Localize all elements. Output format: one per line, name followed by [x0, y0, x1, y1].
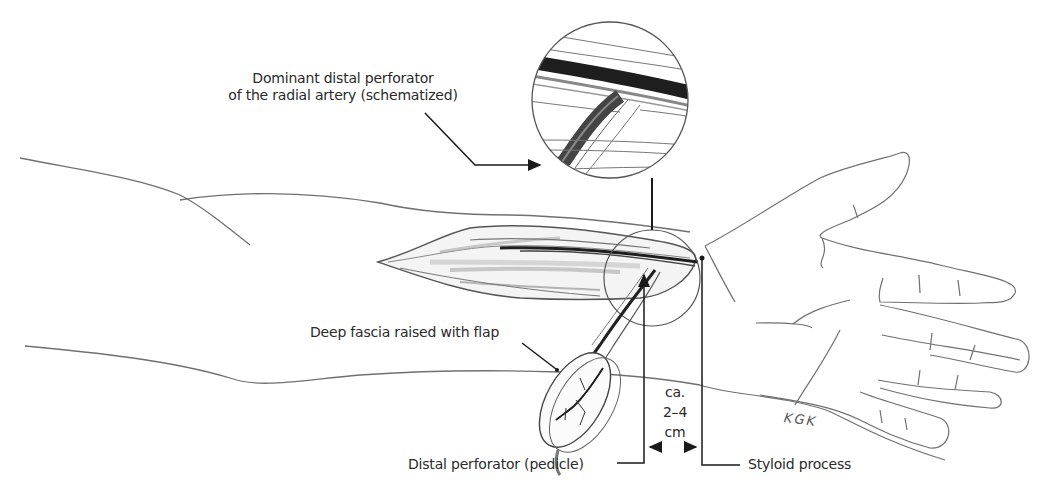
illustration-canvas: [0, 0, 1061, 501]
label-distance-line2: 2–4: [652, 402, 698, 422]
label-distance: ca. 2–4 cm: [652, 382, 698, 442]
label-styloid-process: Styloid process: [748, 456, 851, 473]
perforator-leader: [425, 113, 540, 165]
magnified-detail-circle: [520, 22, 700, 178]
label-distal-perforator-pedicle: Distal perforator (pedicle): [408, 456, 584, 473]
label-distance-line3: cm: [652, 422, 698, 442]
hand-outline: [700, 152, 1029, 460]
label-distance-line1: ca.: [652, 382, 698, 402]
label-perforator-line2: of the radial artery (schematized): [208, 87, 478, 104]
label-dominant-perforator: Dominant distal perforator of the radial…: [208, 70, 478, 104]
fascia-leader: [522, 343, 556, 369]
label-perforator-line1: Dominant distal perforator: [208, 70, 478, 87]
label-deep-fascia: Deep fascia raised with flap: [310, 324, 499, 341]
styloid-leader: [702, 258, 740, 465]
anatomical-illustration: Dominant distal perforator of the radial…: [0, 0, 1061, 501]
